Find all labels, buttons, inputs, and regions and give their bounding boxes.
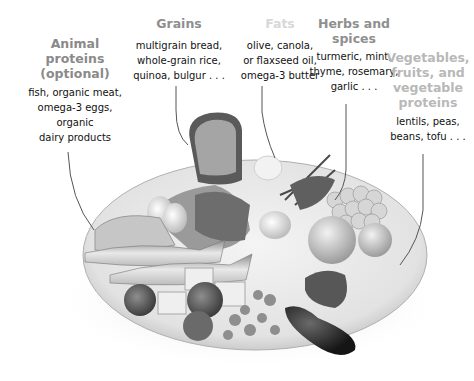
plate-illustration [0, 0, 474, 381]
tomato [183, 311, 213, 341]
garlic [259, 211, 291, 239]
leader-fats [262, 86, 275, 158]
egg [163, 203, 187, 233]
apple [308, 216, 356, 264]
broccoli [124, 284, 156, 316]
leader-grains [176, 86, 188, 145]
butter [254, 156, 282, 180]
lemon [358, 223, 392, 257]
bread-slice [189, 113, 242, 185]
leader-animal [68, 152, 94, 230]
